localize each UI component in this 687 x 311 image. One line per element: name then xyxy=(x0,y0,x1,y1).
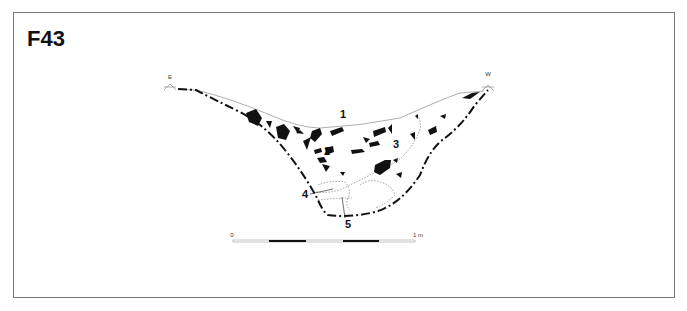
layer-1-label: 1 xyxy=(340,108,346,120)
east-marker: E xyxy=(164,74,176,90)
west-label: W xyxy=(485,71,491,77)
scale-start-label: 0 xyxy=(230,232,234,238)
west-marker: W xyxy=(482,71,494,91)
scale-bar: 0 1 m xyxy=(230,232,423,242)
label-leaders xyxy=(310,189,345,218)
ground-surface-line xyxy=(178,89,484,128)
cut-edge-line xyxy=(178,89,488,216)
section-drawing: E W xyxy=(0,0,687,311)
stones xyxy=(246,92,480,178)
layer-3-label: 3 xyxy=(393,138,399,150)
layer-boundaries xyxy=(312,115,421,210)
scale-end-label: 1 m xyxy=(413,232,423,238)
layer-2-label: 2 xyxy=(324,145,330,157)
east-label: E xyxy=(168,74,172,80)
layer-5-label: 5 xyxy=(345,218,351,230)
layer-4-label: 4 xyxy=(302,188,309,200)
